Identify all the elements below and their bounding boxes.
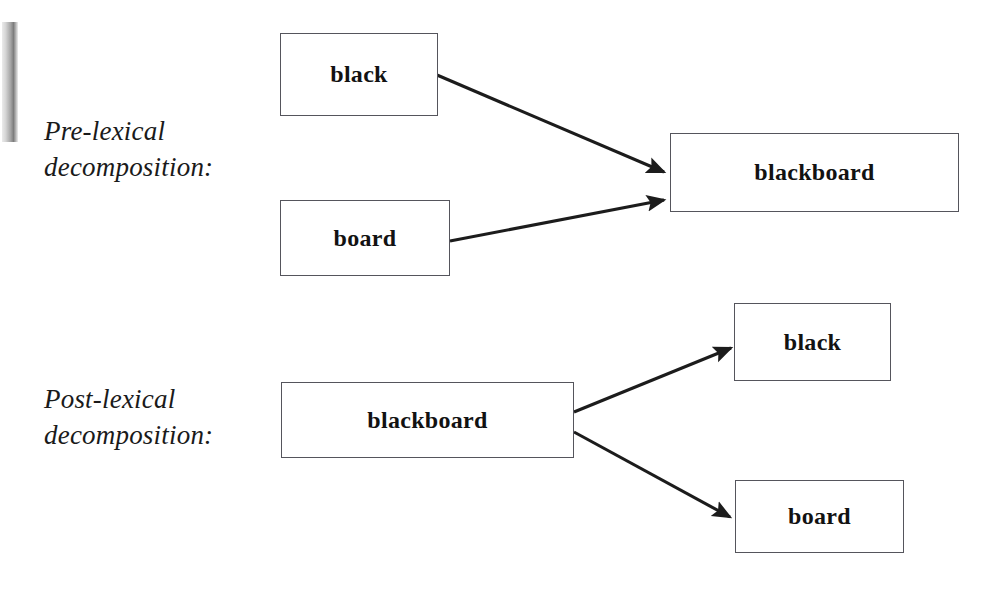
arrow-blackboard-to-board bbox=[574, 432, 730, 517]
node-label: board bbox=[334, 225, 397, 252]
caption-pre-lexical: Pre-lexical decomposition: bbox=[44, 114, 213, 186]
arrow-black-to-blackboard bbox=[437, 75, 664, 172]
node-box-post-black[interactable]: black bbox=[734, 303, 891, 381]
caption-post-lexical: Post-lexical decomposition: bbox=[44, 382, 213, 454]
node-label: board bbox=[788, 503, 851, 530]
node-box-pre-blackboard[interactable]: blackboard bbox=[670, 133, 959, 212]
arrow-blackboard-to-black bbox=[574, 348, 731, 412]
figure-canvas: Pre-lexical decomposition: Post-lexical … bbox=[0, 0, 988, 590]
node-box-pre-black[interactable]: black bbox=[280, 33, 438, 116]
node-label: black bbox=[330, 61, 388, 88]
arrow-board-to-blackboard bbox=[450, 200, 664, 241]
node-label: blackboard bbox=[754, 159, 874, 186]
node-box-post-board[interactable]: board bbox=[735, 480, 904, 553]
node-label: blackboard bbox=[367, 407, 487, 434]
node-label: black bbox=[784, 329, 842, 356]
node-box-post-blackboard[interactable]: blackboard bbox=[281, 382, 574, 458]
scan-artifact-bar bbox=[2, 22, 18, 142]
node-box-pre-board[interactable]: board bbox=[280, 200, 450, 276]
